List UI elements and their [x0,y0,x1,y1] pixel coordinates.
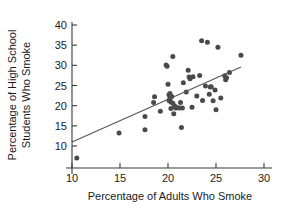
x-tick-label: 15 [114,172,126,184]
data-point [224,75,229,80]
data-point [142,127,147,132]
data-point [205,40,210,45]
y-tick-label: 40 [55,19,67,31]
y-axis-title-line-1: Percentage of High School [6,30,18,161]
data-point [211,98,216,103]
data-point [181,80,186,85]
x-tick-label: 10 [66,172,78,184]
data-point [117,131,122,136]
data-point [142,114,147,119]
data-point [207,92,212,97]
data-point [171,111,176,116]
y-axis-title-line-2: Students Who Smoke [20,42,32,148]
x-tick-label: 25 [210,172,222,184]
data-point [218,96,223,101]
y-tick-label: 35 [55,39,67,51]
data-point [197,73,202,78]
data-point [238,53,243,58]
data-point [190,74,195,79]
y-tick-label: 20 [55,100,67,112]
plot-canvas: 1015202530 10152025303540 Percentage of … [0,0,285,208]
data-point [178,100,183,105]
data-point [190,105,195,110]
x-tick-label: 30 [258,172,270,184]
data-point [200,98,205,103]
scatter-plot-figure: 1015202530 10152025303540 Percentage of … [0,0,285,208]
x-axis-title: Percentage of Adults Who Smoke [88,190,252,202]
data-point [194,93,199,98]
data-point [151,100,156,105]
regression-line [72,67,241,142]
y-tick-label: 15 [55,120,67,132]
x-tick-label: 20 [162,172,174,184]
y-tick-label: 25 [55,80,67,92]
data-point [166,82,171,87]
data-point [186,68,191,73]
data-point [199,38,204,43]
y-axis-ticks: 10152025303540 [55,19,77,152]
y-tick-label: 10 [55,140,67,152]
data-point [209,84,214,89]
data-point [214,107,219,112]
data-point [165,64,170,69]
data-point [158,109,163,114]
data-point [179,125,184,130]
data-point [180,106,185,111]
data-point [74,156,79,161]
scatter-points-group [74,38,243,160]
data-point [152,94,157,99]
data-point [213,87,218,92]
data-point [203,83,208,88]
y-tick-label: 30 [55,59,67,71]
data-point [170,54,175,59]
data-point [215,45,220,50]
x-axis-ticks: 1015202530 [66,163,270,184]
